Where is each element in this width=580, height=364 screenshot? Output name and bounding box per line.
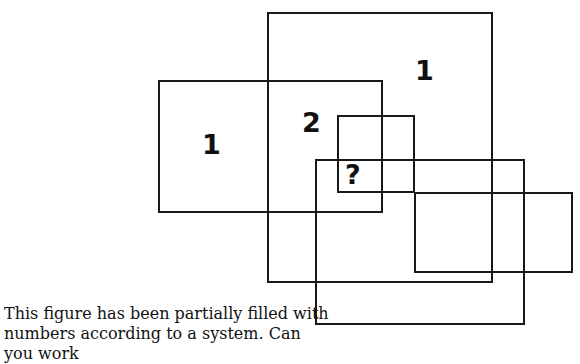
caption: This figure has been partially filled wi… (4, 304, 334, 364)
caption-line-1: This figure has been partially filled wi… (4, 304, 334, 324)
caption-line-2: numbers according to a system. Can you w… (4, 324, 334, 364)
rectangle-right (414, 192, 573, 273)
label-top-region: 1 (415, 57, 434, 84)
label-question-mark: ? (345, 161, 361, 188)
label-left-region: 1 (202, 131, 221, 158)
label-middle-region: 2 (302, 109, 321, 136)
